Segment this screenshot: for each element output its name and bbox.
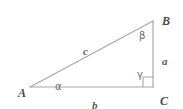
vertex-label-b: B — [162, 15, 170, 27]
angle-label-gamma: γ — [137, 70, 143, 80]
vertex-label-c: C — [160, 95, 168, 107]
side-label-c: c — [83, 46, 88, 57]
right-angle-marker-icon — [143, 77, 153, 87]
side-label-a: a — [162, 56, 168, 67]
vertex-label-a: A — [18, 87, 26, 99]
geometry-diagram: A B C c b a α β γ — [0, 0, 183, 109]
angle-label-alpha: α — [55, 82, 62, 92]
triangle-figure — [0, 0, 183, 109]
side-label-b: b — [92, 100, 98, 109]
angle-label-beta: β — [139, 31, 145, 41]
segment-hypotenuse-c — [30, 21, 153, 87]
